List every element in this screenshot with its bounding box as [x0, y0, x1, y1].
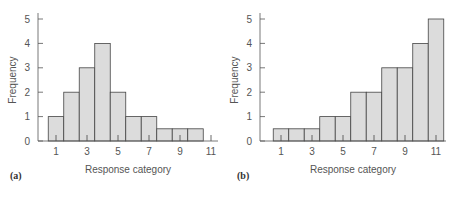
- histogram-b: 1357911012345Response categoryFrequency: [228, 0, 457, 200]
- x-tick-label: 11: [431, 146, 442, 157]
- y-tick-label: 3: [246, 62, 252, 73]
- histogram-bar: [95, 43, 111, 141]
- x-tick-label: 9: [177, 146, 183, 157]
- histogram-a: 1357911012345Response categoryFrequency: [0, 0, 228, 200]
- histogram-bar: [64, 92, 80, 141]
- x-tick-label: 1: [53, 146, 59, 157]
- histogram-bar: [397, 68, 413, 141]
- x-axis-title: Response category: [310, 164, 396, 175]
- histogram-bar: [320, 117, 336, 141]
- y-tick-label: 0: [246, 136, 252, 147]
- histogram-bar: [188, 129, 204, 141]
- histogram-bar: [351, 92, 367, 141]
- y-tick-label: 1: [246, 111, 252, 122]
- x-axis-title: Response category: [85, 164, 171, 175]
- y-tick-label: 5: [24, 14, 30, 25]
- y-tick-label: 0: [24, 136, 30, 147]
- histogram-bar: [126, 117, 142, 141]
- histogram-bar: [413, 43, 429, 141]
- y-axis-title: Frequency: [7, 56, 18, 103]
- x-tick-label: 3: [309, 146, 315, 157]
- x-tick-label: 7: [146, 146, 152, 157]
- x-tick-label: 5: [340, 146, 346, 157]
- histogram-bar: [366, 92, 382, 141]
- x-tick-label: 7: [371, 146, 377, 157]
- histogram-bar: [382, 68, 398, 141]
- y-tick-label: 5: [246, 14, 252, 25]
- y-tick-label: 2: [24, 87, 30, 98]
- y-tick-label: 2: [246, 87, 252, 98]
- histogram-bar: [428, 19, 444, 141]
- x-tick-label: 11: [206, 146, 217, 157]
- y-tick-label: 4: [24, 38, 30, 49]
- x-tick-label: 3: [84, 146, 90, 157]
- panel-label-a: (a): [10, 170, 22, 181]
- x-tick-label: 9: [402, 146, 408, 157]
- y-axis-title: Frequency: [229, 56, 240, 103]
- x-tick-label: 5: [115, 146, 121, 157]
- chart-panel-b: 1357911012345Response categoryFrequency …: [228, 0, 456, 200]
- y-tick-label: 4: [246, 38, 252, 49]
- chart-panel-a: 1357911012345Response categoryFrequency …: [0, 0, 228, 200]
- histogram-bar: [79, 68, 95, 141]
- panel-label-b: (b): [237, 170, 249, 181]
- histogram-bar: [157, 129, 173, 141]
- x-tick-label: 1: [278, 146, 284, 157]
- histogram-bar: [110, 92, 126, 141]
- y-tick-label: 3: [24, 62, 30, 73]
- y-tick-label: 1: [24, 111, 30, 122]
- histogram-bar: [289, 129, 305, 141]
